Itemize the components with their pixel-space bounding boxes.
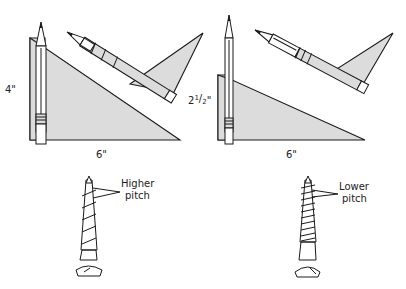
right-height-label: 21/2" (188, 93, 211, 106)
right-pitch-label-line2: pitch (342, 193, 367, 204)
left-panel: 4" 6" Higher pitch (5, 22, 203, 276)
left-pitch-label-line2: pitch (125, 190, 150, 201)
right-pitch-label-line1: Lower (339, 181, 370, 192)
left-base-label: 6" (96, 149, 107, 160)
right-vertical-pencil (225, 15, 233, 144)
left-pitch-label-line1: Higher (121, 178, 155, 189)
right-flat-triangle (218, 75, 365, 140)
higher-pitch-screw (76, 176, 102, 276)
screw-pitch-diagram: 4" 6" Higher pitch (0, 0, 406, 289)
left-height-label: 4" (5, 84, 16, 95)
right-base-label: 6" (286, 149, 297, 160)
left-wrapped-triangle (130, 33, 203, 96)
right-panel: 21/2" 6" Lower pitch (188, 15, 393, 277)
left-vertical-pencil (36, 22, 46, 144)
